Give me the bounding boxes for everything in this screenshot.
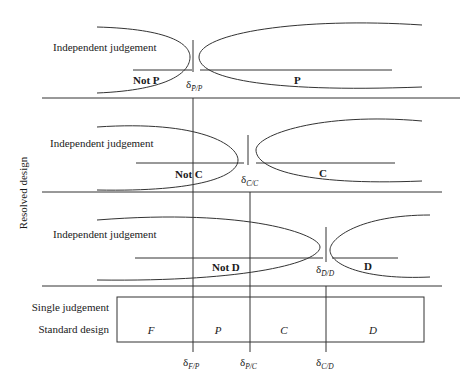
threshold-label-c-d: δC/D bbox=[316, 356, 334, 371]
category-c: C bbox=[280, 324, 288, 336]
threshold-label-p-c: δP/C bbox=[240, 356, 258, 371]
panel-d-title: Independent judgement bbox=[53, 228, 157, 240]
category-p: P bbox=[214, 324, 222, 336]
d-curve bbox=[330, 215, 430, 277]
panel-c: Independent judgement Not C C δC̄/C bbox=[50, 119, 422, 190]
not-d-curve bbox=[97, 217, 320, 280]
panel-p-title: Independent judgement bbox=[53, 41, 157, 53]
standard-design-box bbox=[117, 297, 424, 342]
d-label: D bbox=[364, 260, 372, 272]
threshold-label-c: δC̄/C bbox=[241, 173, 259, 188]
panel-c-title: Independent judgement bbox=[50, 137, 154, 149]
threshold-label-p: δP̄/P bbox=[186, 78, 203, 93]
category-f: F bbox=[147, 324, 155, 336]
not-c-label: Not C bbox=[175, 168, 203, 180]
not-d-label: Not D bbox=[212, 261, 240, 273]
single-judgement-label: Single judgement bbox=[32, 301, 109, 313]
standard-design-label: Standard design bbox=[38, 323, 109, 335]
not-p-label: Not P bbox=[133, 74, 160, 86]
p-label: P bbox=[294, 74, 301, 86]
y-axis-label: Resolved design bbox=[17, 156, 29, 229]
standard-design: Single judgement Standard design F P C D… bbox=[32, 297, 424, 371]
not-c-curve bbox=[97, 126, 238, 190]
threshold-label-f-p: δF/P bbox=[183, 356, 200, 371]
p-curve bbox=[199, 23, 422, 88]
c-curve bbox=[256, 119, 422, 182]
category-d: D bbox=[368, 324, 377, 336]
panel-d: Independent judgement Not D D δD̄/D bbox=[53, 215, 430, 280]
panel-p: Independent judgement Not P P δP̄/P bbox=[53, 23, 422, 93]
decision-diagram: Independent judgement Not P P δP̄/P Inde… bbox=[0, 0, 462, 389]
c-label: C bbox=[319, 167, 327, 179]
threshold-label-d: δD̄/D bbox=[316, 263, 335, 278]
